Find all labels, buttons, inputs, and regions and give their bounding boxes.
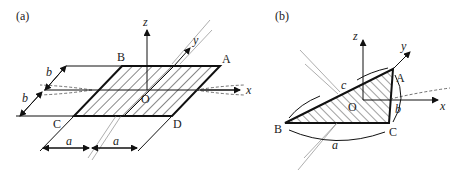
vertex-d: D bbox=[173, 117, 182, 131]
a-label-right: a bbox=[113, 134, 119, 148]
c-guide-2 bbox=[305, 64, 338, 94]
origin-o: O bbox=[141, 92, 150, 106]
y-axis-b bbox=[393, 52, 410, 69]
z-axis-label: z bbox=[142, 15, 148, 29]
x-axis-label: x bbox=[245, 83, 252, 97]
figure-a: (a) z y x B A C D O bbox=[16, 9, 252, 160]
origin-o-b: O bbox=[348, 100, 357, 114]
x-guide-lower bbox=[196, 90, 244, 95]
figure-b: (b) z x y A B C O c a b bbox=[274, 9, 450, 170]
y-axis-label-b: y bbox=[400, 39, 407, 53]
figure: (a) z y x B A C D O bbox=[0, 0, 463, 179]
x-guide-upper bbox=[196, 85, 244, 90]
z-axis-label-b: z bbox=[352, 29, 358, 43]
a-label-b: a bbox=[332, 138, 338, 152]
a-extension-right bbox=[138, 116, 172, 151]
x-guide-left-lower bbox=[40, 90, 92, 95]
b-label-b: b bbox=[395, 102, 401, 116]
b-label-upper: b bbox=[46, 65, 52, 79]
b-guide bbox=[390, 88, 450, 99]
x-axis-label-b: x bbox=[439, 99, 446, 113]
vertex-a-b: A bbox=[396, 71, 405, 85]
b-label-lower: b bbox=[22, 91, 28, 105]
c-label: c bbox=[341, 78, 347, 92]
y-guide-line-1 bbox=[172, 20, 210, 64]
panel-label-a: (a) bbox=[16, 9, 29, 23]
vertex-b: B bbox=[117, 50, 125, 64]
a-label-left: a bbox=[66, 134, 72, 148]
y-guide-line-3 bbox=[88, 116, 116, 158]
c-guide-1 bbox=[300, 50, 340, 92]
y-axis bbox=[174, 48, 190, 66]
panel-label-b: (b) bbox=[275, 9, 289, 23]
vertex-c: C bbox=[53, 117, 61, 131]
vertex-c-b: C bbox=[389, 125, 397, 139]
vertex-a: A bbox=[222, 52, 231, 66]
vertex-b-b: B bbox=[274, 122, 282, 136]
